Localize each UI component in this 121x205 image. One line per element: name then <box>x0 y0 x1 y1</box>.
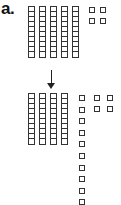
unit-cube <box>79 141 85 147</box>
unit-cube <box>79 176 85 182</box>
unit-cube <box>79 130 85 136</box>
unit-cube <box>100 7 106 13</box>
unit-cube <box>89 18 95 24</box>
unit-cube <box>79 199 85 205</box>
arrow-head-icon <box>47 83 55 89</box>
unit-cube <box>79 118 85 124</box>
tens-rod <box>61 93 68 145</box>
tens-rod <box>61 6 68 58</box>
unit-cube <box>79 153 85 159</box>
down-arrow-icon <box>51 70 52 84</box>
unit-cube <box>107 95 113 101</box>
unit-cube <box>89 7 95 13</box>
tens-rod <box>39 6 46 58</box>
tens-rod <box>50 93 57 145</box>
unit-cube <box>94 106 100 112</box>
unit-cube <box>107 106 113 112</box>
unit-cube <box>79 188 85 194</box>
part-label: a. <box>1 0 14 18</box>
tens-rod <box>72 6 79 58</box>
tens-rod <box>39 93 46 145</box>
unit-cube <box>79 95 85 101</box>
tens-rod <box>50 6 57 58</box>
tens-rod <box>28 6 35 58</box>
unit-cube <box>94 95 100 101</box>
unit-cube <box>79 107 85 113</box>
unit-cube <box>79 165 85 171</box>
unit-cube <box>100 18 106 24</box>
tens-rod <box>28 93 35 145</box>
